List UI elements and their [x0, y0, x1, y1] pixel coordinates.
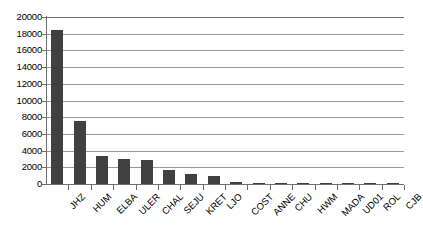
bar[interactable] [275, 183, 287, 184]
x-axis-tick-mark [203, 185, 204, 190]
bar-slot [180, 17, 202, 184]
x-axis-tick-mark [315, 185, 316, 190]
x-axis-category-label: HUM [91, 191, 114, 214]
x-axis-category-label: COST [249, 191, 275, 217]
y-axis-tick-label: 0 [0, 179, 42, 189]
y-axis-tick-label: 20000 [0, 12, 42, 22]
x-axis-category-label: CJB [403, 191, 423, 211]
x-axis-tick-mark [292, 185, 293, 190]
bar[interactable] [320, 183, 332, 184]
x-axis-tick-mark [404, 185, 405, 190]
x-axis-category-label: ROL [381, 191, 403, 213]
bar[interactable] [163, 170, 175, 184]
x-axis-category-labels: JHZHUMELBAULERCHALSEJUKRETLJOCOSTANNECHU… [46, 191, 404, 239]
bar-slot [91, 17, 113, 184]
x-axis-tick-mark [180, 185, 181, 190]
x-axis-category-label: HWM [315, 191, 340, 216]
x-axis-category-label: SEJU [181, 191, 206, 216]
x-axis-tick-mark [113, 185, 114, 190]
bar-slot [136, 17, 158, 184]
x-axis-category-label: ULER [137, 191, 163, 217]
x-axis-tick-mark [91, 185, 92, 190]
bar[interactable] [364, 183, 376, 184]
bar-slot [270, 17, 292, 184]
bar-slot [337, 17, 359, 184]
x-axis-tick-mark [225, 185, 226, 190]
y-axis-tick-label: 8000 [0, 112, 42, 122]
x-axis-category-label: LJO [224, 191, 244, 211]
bar[interactable] [208, 176, 220, 184]
bar-slot [203, 17, 225, 184]
bars-layer [46, 17, 404, 184]
bar-slot [158, 17, 180, 184]
bar[interactable] [297, 183, 309, 184]
y-axis-tick-label: 18000 [0, 29, 42, 39]
bar-slot [359, 17, 381, 184]
bar-slot [225, 17, 247, 184]
y-axis-tick-label: 6000 [0, 129, 42, 139]
x-axis-tick-mark [337, 185, 338, 190]
y-axis-tick-label: 16000 [0, 45, 42, 55]
bar[interactable] [51, 30, 63, 184]
bar-slot [247, 17, 269, 184]
bar[interactable] [230, 182, 242, 184]
y-axis-tick-label: 4000 [0, 146, 42, 156]
y-axis-tick-label: 2000 [0, 162, 42, 172]
x-axis-category-label: CHAL [159, 191, 185, 217]
y-axis-tick-label: 10000 [0, 96, 42, 106]
bar-slot [46, 17, 68, 184]
bar[interactable] [96, 156, 108, 184]
bar[interactable] [74, 121, 86, 184]
x-axis-tick-mark [382, 185, 383, 190]
bar[interactable] [342, 183, 354, 184]
bar-slot [315, 17, 337, 184]
y-axis-tick-label: 14000 [0, 62, 42, 72]
y-axis-tick-label: 12000 [0, 79, 42, 89]
bar-slot [113, 17, 135, 184]
y-axis-tick-labels: 0200040006000800010000120001400016000180… [0, 0, 42, 239]
bar-slot [68, 17, 90, 184]
x-axis-category-label: ELBA [114, 191, 139, 216]
bar-slot [382, 17, 404, 184]
bar[interactable] [185, 174, 197, 184]
bar[interactable] [387, 183, 399, 184]
bar[interactable] [141, 160, 153, 184]
x-axis-category-label: JHZ [67, 191, 87, 211]
x-axis-tick-mark [68, 185, 69, 190]
x-axis-tick-mark [136, 185, 137, 190]
x-axis-tick-mark [158, 185, 159, 190]
bar[interactable] [253, 183, 265, 184]
x-axis-tick-mark [270, 185, 271, 190]
x-axis-tick-mark [247, 185, 248, 190]
x-axis-category-label: CHU [292, 191, 314, 213]
x-axis-tick-mark [359, 185, 360, 190]
bar-slot [292, 17, 314, 184]
bar[interactable] [118, 159, 130, 184]
